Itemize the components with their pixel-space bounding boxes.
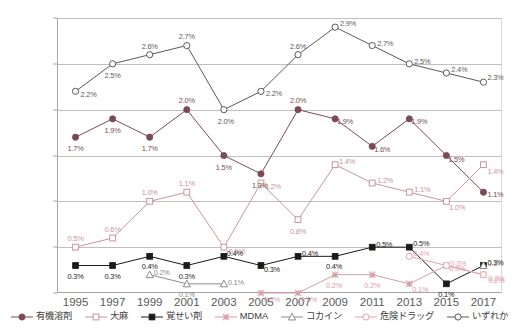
- legend-item-コカイン[interactable]: コカイン: [281, 312, 342, 322]
- data-point-marker: [184, 263, 190, 269]
- data-label: 2.2%: [81, 90, 97, 99]
- data-point-marker: [184, 107, 190, 113]
- data-point-marker: [147, 134, 153, 140]
- data-label: 0.1%: [438, 289, 454, 298]
- legend-marker-icon: [85, 312, 107, 322]
- legend-label: 大麻: [110, 312, 128, 321]
- data-label: 0.0%: [301, 295, 317, 304]
- data-point-marker: [147, 198, 153, 204]
- data-point-marker: [295, 52, 301, 58]
- legend-label: 危険ドラッグ: [380, 312, 434, 321]
- data-point-marker: [332, 272, 338, 278]
- data-point-marker: [332, 24, 338, 30]
- data-point-marker: [73, 263, 79, 269]
- legend-marker-icon: [215, 312, 237, 322]
- data-point-marker: [369, 272, 375, 278]
- data-label: 2.2%: [266, 89, 282, 98]
- data-label: 0.5%: [413, 239, 429, 248]
- data-point-marker: [332, 162, 338, 168]
- data-label: 2.7%: [179, 31, 195, 40]
- data-label: 0.5%: [68, 234, 84, 243]
- data-point-marker: [406, 189, 412, 195]
- data-label: 0.0%: [264, 295, 280, 304]
- legend-label: 有機溶剤: [36, 312, 72, 321]
- data-label: 1.9%: [337, 116, 353, 125]
- data-point-marker: [184, 42, 190, 48]
- data-label: 1.7%: [142, 144, 158, 153]
- data-point-marker: [480, 189, 486, 195]
- data-point-marker: [369, 180, 375, 186]
- data-label: 2.0%: [218, 116, 234, 125]
- data-label: 0.1%: [412, 284, 428, 293]
- legend-marker-icon: [141, 312, 163, 322]
- data-label: 1.5%: [216, 162, 232, 171]
- data-point-marker: [110, 116, 116, 122]
- legend-marker-icon: [355, 312, 377, 322]
- data-label: 2.7%: [377, 38, 393, 47]
- data-label: 0.2%: [154, 267, 170, 276]
- data-point-marker: [455, 314, 461, 320]
- data-point-marker: [369, 244, 375, 250]
- data-label: 2.6%: [142, 41, 158, 50]
- data-label: 1.0%: [449, 203, 465, 212]
- data-label: 2.4%: [451, 65, 467, 74]
- legend-item-MDMA[interactable]: MDMA: [215, 312, 268, 322]
- legend-item-覚せい剤[interactable]: 覚せい剤: [141, 312, 202, 322]
- series-コカイン: [146, 262, 487, 287]
- data-label: 0.3%: [487, 258, 503, 267]
- data-point-marker: [406, 61, 412, 67]
- data-point-marker: [481, 162, 487, 168]
- data-label: 1.1%: [179, 179, 195, 188]
- data-label: 2.0%: [179, 95, 195, 104]
- data-point-marker: [258, 88, 264, 94]
- data-label: 0.3%: [264, 264, 280, 273]
- data-label: 1.4%: [339, 156, 355, 165]
- data-point-marker: [406, 253, 412, 259]
- data-label: 1.9%: [411, 116, 427, 125]
- data-label: 1.0%: [142, 188, 158, 197]
- series-いずれか: [72, 24, 486, 113]
- data-label: 0.3%: [105, 271, 121, 280]
- data-label: 0.2%: [326, 280, 342, 289]
- data-label: 1.2%: [377, 176, 393, 185]
- drug-usage-line-chart: 0.0%0.5%1.0%1.5%2.0%2.5%3.0% 19951997199…: [0, 0, 519, 333]
- data-point-marker: [110, 235, 116, 241]
- data-label: 0.3%: [68, 271, 84, 280]
- data-label: 2.6%: [290, 41, 306, 50]
- series-大麻: [73, 162, 487, 250]
- data-point-marker: [110, 263, 116, 269]
- data-point-marker: [332, 253, 338, 259]
- data-point-marker: [221, 152, 227, 158]
- data-label: 2.0%: [290, 95, 306, 104]
- data-point-marker: [369, 42, 375, 48]
- data-point-marker: [480, 79, 486, 85]
- data-label: 0.8%: [290, 226, 306, 235]
- data-label: 0.4%: [413, 249, 429, 258]
- data-label: 1.5%: [448, 154, 464, 163]
- data-point-marker: [295, 217, 301, 223]
- legend-marker-icon: [11, 312, 33, 322]
- data-label: 0.2%: [364, 280, 380, 289]
- series-layer: [0, 0, 519, 333]
- legend-item-大麻[interactable]: 大麻: [85, 312, 128, 322]
- legend-item-有機溶剤[interactable]: 有機溶剤: [11, 312, 72, 322]
- data-label: 0.4%: [302, 249, 318, 258]
- data-point-marker: [110, 61, 116, 67]
- data-point-marker: [258, 171, 264, 177]
- legend-item-いずれか[interactable]: いずれか: [447, 312, 508, 322]
- data-label: 0.3%: [450, 258, 466, 267]
- data-point-marker: [406, 244, 412, 250]
- legend-label: 覚せい剤: [166, 312, 202, 321]
- data-point-marker: [72, 88, 78, 94]
- data-point-marker: [443, 281, 449, 287]
- data-point-marker: [223, 314, 229, 320]
- series-line: [76, 165, 484, 248]
- legend-item-危険ドラッグ[interactable]: 危険ドラッグ: [355, 312, 434, 322]
- data-point-marker: [147, 253, 153, 259]
- data-label: 1.6%: [374, 145, 390, 154]
- data-label: 2.3%: [487, 73, 503, 82]
- data-label: 2.5%: [414, 56, 430, 65]
- data-point-marker: [184, 189, 190, 195]
- data-label: 2.9%: [340, 19, 356, 28]
- data-point-marker: [480, 272, 486, 278]
